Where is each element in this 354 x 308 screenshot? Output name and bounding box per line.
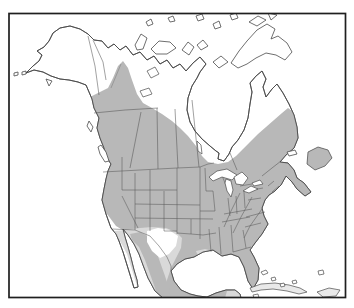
north-america-range-map <box>0 0 354 308</box>
aleutian-islet-2 <box>22 71 26 75</box>
aleutian-islet-1 <box>14 72 18 76</box>
range-map-figure <box>0 0 354 308</box>
